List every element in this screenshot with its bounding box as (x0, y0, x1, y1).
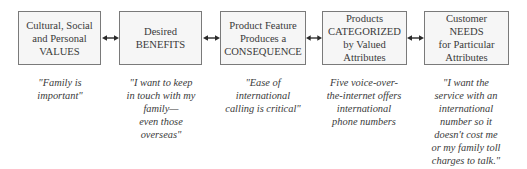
caption-needs: "I want the service with an internationa… (416, 76, 516, 167)
box-consequence: Product Feature Produces a CONSEQUENCE (220, 11, 306, 65)
box-benefits-label: Desired BENEFITS (136, 25, 185, 51)
box-values-label: Cultural, Social and Personal VALUES (26, 19, 93, 58)
box-categorized: Products CATEGORIZED by Valued Attribute… (322, 11, 407, 65)
means-end-chain-diagram: Cultural, Social and Personal VALUES Des… (0, 0, 527, 169)
double-arrow-icon (306, 33, 322, 43)
box-benefits: Desired BENEFITS (119, 11, 202, 65)
double-arrow-icon (203, 33, 220, 43)
caption-consequence: "Ease of international calling is critic… (213, 76, 313, 115)
caption-values: "Family is important" (10, 76, 110, 102)
box-needs: Customer NEEDS for Particular Attributes (424, 11, 509, 65)
caption-benefits: "I want to keep in touch with my family—… (111, 76, 211, 141)
double-arrow-icon (407, 33, 424, 43)
caption-categorized: Five voice-over- the-internet offers int… (314, 76, 414, 128)
box-consequence-label: Product Feature Produces a CONSEQUENCE (224, 19, 302, 58)
box-values: Cultural, Social and Personal VALUES (18, 11, 101, 65)
double-arrow-icon (102, 33, 119, 43)
box-categorized-label: Products CATEGORIZED by Valued Attribute… (328, 12, 401, 64)
box-needs-label: Customer NEEDS for Particular Attributes (438, 12, 494, 64)
